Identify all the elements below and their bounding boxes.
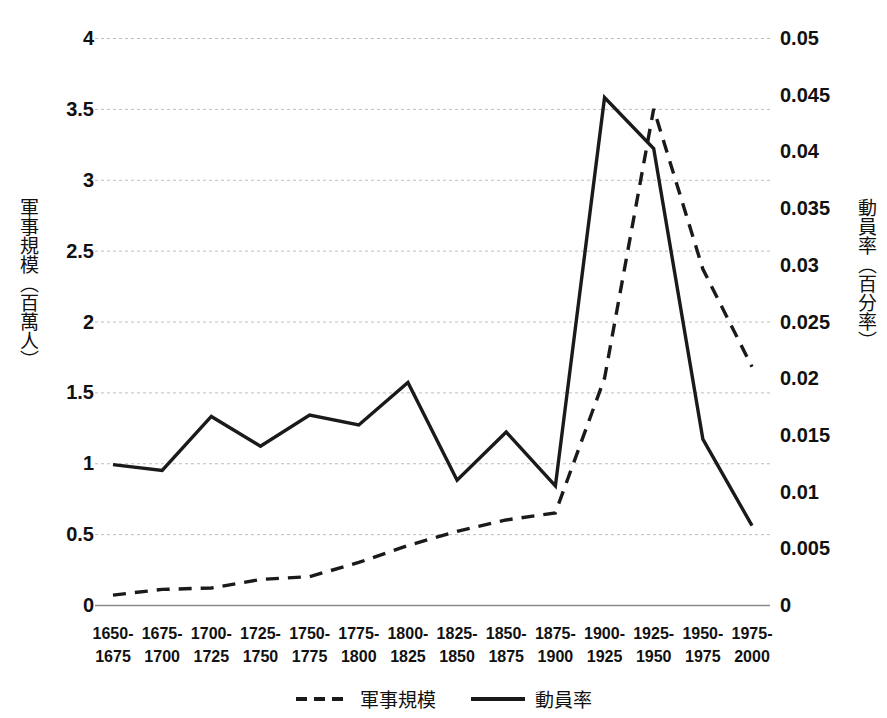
legend-label: 動員率 bbox=[535, 685, 592, 712]
dashed-line-icon bbox=[295, 693, 351, 705]
y-axis-right-tick-label: 0.02 bbox=[780, 368, 850, 388]
y-axis-right-tick-label: 0.03 bbox=[780, 255, 850, 275]
x-axis-tick-label: 1800- 1825 bbox=[381, 622, 435, 668]
y-axis-left-tick-label: 4 bbox=[36, 28, 94, 48]
x-axis-tick-label: 1875- 1900 bbox=[528, 622, 582, 668]
y-axis-right-tick-label: 0.005 bbox=[780, 538, 850, 558]
x-axis-tick-label: 1900- 1925 bbox=[578, 622, 632, 668]
y-axis-left-title: 軍事規模（百萬人） bbox=[14, 198, 38, 369]
plot-area bbox=[95, 38, 770, 605]
y-axis-right-tick-label: 0.015 bbox=[780, 425, 850, 445]
y-axis-right-tick-label: 0.01 bbox=[780, 482, 850, 502]
x-axis-tick-label: 1975- 2000 bbox=[725, 622, 779, 668]
series-line-mobilization-rate bbox=[113, 98, 752, 526]
y-axis-left-tick-label: 1 bbox=[36, 453, 94, 473]
y-axis-left-tick-label: 0.5 bbox=[36, 524, 94, 544]
y-axis-left-tick-label: 0 bbox=[36, 595, 94, 615]
y-axis-left-tick-label: 3 bbox=[36, 170, 94, 190]
chart-container: 軍事規模（百萬人） 動員率（百分率） 43.532.521.510.50 0.0… bbox=[0, 0, 887, 718]
y-axis-left-tick-label: 2 bbox=[36, 312, 94, 332]
y-axis-left-tick-label: 1.5 bbox=[36, 382, 94, 402]
x-axis-tick-label: 1725- 1750 bbox=[233, 622, 287, 668]
y-axis-right-title: 動員率（百分率） bbox=[852, 198, 876, 350]
y-axis-right-tick-label: 0.05 bbox=[780, 28, 850, 48]
legend-item[interactable]: 軍事規模 bbox=[295, 685, 436, 712]
legend-label: 軍事規模 bbox=[360, 685, 436, 712]
legend-item[interactable]: 動員率 bbox=[470, 685, 592, 712]
x-axis-tick-label: 1925- 1950 bbox=[627, 622, 681, 668]
x-axis-tick-label: 1700- 1725 bbox=[184, 622, 238, 668]
series-line-military-size bbox=[113, 109, 752, 595]
y-axis-right-tick-label: 0.04 bbox=[780, 141, 850, 161]
x-axis-tick-label: 1775- 1800 bbox=[332, 622, 386, 668]
x-axis-tick-label: 1825- 1850 bbox=[430, 622, 484, 668]
solid-line-icon bbox=[470, 693, 526, 705]
chart-svg bbox=[95, 38, 770, 607]
chart-legend: 軍事規模動員率 bbox=[0, 685, 887, 712]
x-axis-tick-label: 1750- 1775 bbox=[283, 622, 337, 668]
x-axis-tick-label: 1675- 1700 bbox=[135, 622, 189, 668]
x-axis-tick-label: 1650- 1675 bbox=[86, 622, 140, 668]
y-axis-right-tick-label: 0.035 bbox=[780, 198, 850, 218]
x-axis-tick-label: 1850- 1875 bbox=[479, 622, 533, 668]
y-axis-right-tick-label: 0.045 bbox=[780, 85, 850, 105]
y-axis-left-tick-label: 3.5 bbox=[36, 99, 94, 119]
y-axis-left-tick-label: 2.5 bbox=[36, 241, 94, 261]
x-axis-tick-label: 1950- 1975 bbox=[676, 622, 730, 668]
y-axis-right-tick-label: 0 bbox=[780, 595, 850, 615]
y-axis-right-tick-label: 0.025 bbox=[780, 312, 850, 332]
